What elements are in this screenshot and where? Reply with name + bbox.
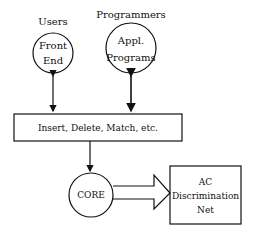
programmers-label: Programmers xyxy=(96,9,166,21)
front-end-label-1: Front xyxy=(33,40,73,52)
appl-programs-label-2: Programs xyxy=(106,52,156,64)
users-label: Users xyxy=(33,16,73,28)
block-arrow xyxy=(113,175,170,209)
ac-net-label-3: Net xyxy=(170,204,241,216)
front-end-node xyxy=(33,33,73,73)
appl-programs-node xyxy=(106,23,156,73)
ac-net-label-2: Discrimination xyxy=(170,190,241,202)
appl-programs-label-1: Appl. xyxy=(106,35,156,47)
front-end-label-2: End xyxy=(33,55,73,67)
core-label: CORE xyxy=(70,189,112,201)
ac-net-label-1: AC xyxy=(170,176,241,188)
operations-label: Insert, Delete, Match, etc. xyxy=(14,122,182,134)
